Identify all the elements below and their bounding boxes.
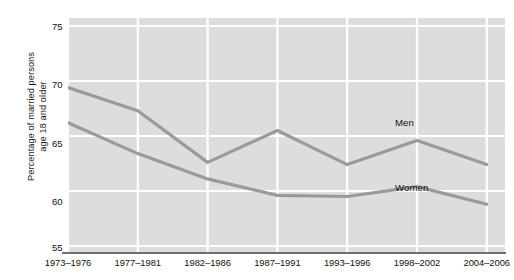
- x-tick-label: 2004–2006: [453, 257, 514, 269]
- series-label-men: Men: [395, 117, 414, 128]
- x-tick-label: 1987–1991: [243, 257, 311, 269]
- chart-figure: Percentage of married persons age 18 and…: [0, 0, 514, 280]
- x-tick-label: 1977–1981: [104, 257, 172, 269]
- plot-svg: [68, 18, 505, 252]
- x-axis-line: [62, 252, 506, 254]
- plot-area: [68, 18, 505, 252]
- x-tick-label: 1973–1976: [34, 257, 102, 269]
- x-tick-label: 1982–1986: [174, 257, 242, 269]
- x-tick-label: 1998–2002: [383, 257, 451, 269]
- x-tick-label: 1993–1996: [313, 257, 381, 269]
- series-label-women: Women: [395, 182, 428, 193]
